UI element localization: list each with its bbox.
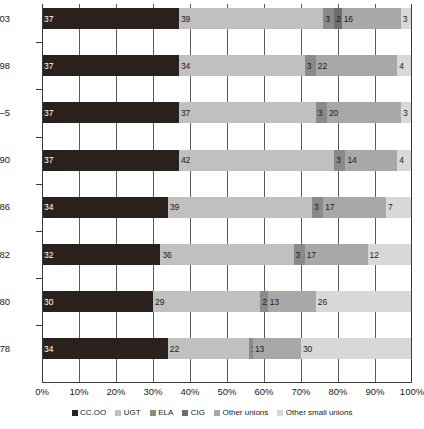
bar-segment-label: 14 [347, 156, 356, 165]
legend-label: UGT [124, 409, 141, 417]
bar-segment[interactable]: 17 [305, 244, 368, 265]
bar-segment[interactable]: 26 [316, 291, 412, 312]
bar-segment[interactable]: 37 [42, 150, 179, 171]
bar-row: 37343224 [42, 55, 412, 76]
bar-segment[interactable]: 37 [42, 55, 179, 76]
legend-item[interactable]: CC.OO [72, 409, 107, 417]
bar-segment[interactable]: 42 [179, 150, 334, 171]
bar-segment[interactable]: 30 [301, 338, 412, 359]
bar-segment-label: 12 [370, 250, 379, 259]
stacked-bar: 34393177 [42, 197, 412, 218]
x-axis-tick-label: 80% [328, 386, 347, 397]
bar-segment[interactable]: 22 [168, 338, 249, 359]
bar-row: 37423144 [42, 150, 412, 171]
bar-segment-label: 36 [162, 250, 171, 259]
bar-segment-label: 3 [296, 250, 301, 259]
bar-segment[interactable]: 4 [397, 55, 412, 76]
bar-segment[interactable]: 2 [334, 8, 341, 29]
bar-segment[interactable]: 37 [179, 102, 316, 123]
bar-segment[interactable]: 16 [342, 8, 401, 29]
bar-segment[interactable]: 34 [42, 338, 168, 359]
bar-segment[interactable]: 29 [153, 291, 260, 312]
bar-segment[interactable]: 22 [316, 55, 397, 76]
x-axis-tick-label: 50% [217, 386, 236, 397]
bar-segment[interactable]: 30 [42, 291, 153, 312]
bar-segment-label: 37 [181, 109, 190, 118]
x-axis-tick-label: 20% [106, 386, 125, 397]
stacked-bar: 37423144 [42, 150, 412, 171]
legend-swatch-icon [150, 410, 156, 416]
bar-segment-label: 37 [44, 14, 53, 23]
legend-label: ELA [158, 409, 173, 417]
chart-legend: CC.OOUGTELACIGOther unionsOther small un… [0, 409, 424, 417]
bar-segment-label: 13 [255, 345, 264, 354]
stacked-bar: 37343224 [42, 55, 412, 76]
bar-segment[interactable]: 39 [168, 197, 312, 218]
bar-segment[interactable]: 14 [345, 150, 397, 171]
legend-item[interactable]: ELA [150, 409, 174, 417]
bar-segment-label: 42 [181, 156, 190, 165]
bar-segment[interactable]: 32 [42, 244, 160, 265]
bar-segment[interactable]: 37 [42, 102, 179, 123]
bar-row: 302921326 [42, 291, 412, 312]
bar-segment[interactable]: 3 [334, 150, 345, 171]
bar-segment-label: 34 [44, 203, 53, 212]
legend-label: CC.OO [80, 409, 106, 417]
bar-segment[interactable]: 37 [42, 8, 179, 29]
y-axis-label: 1990 [0, 154, 10, 165]
bar-segment-label: 2 [336, 14, 341, 23]
bar-segment-label: 2 [262, 297, 267, 306]
legend-swatch-icon [72, 410, 78, 416]
bar-segment-label: 4 [399, 61, 404, 70]
bar-segment[interactable]: 3 [401, 8, 412, 29]
bar-segment-label: 3 [314, 203, 319, 212]
plot-area: 3739321633734322437373203374231443439317… [42, 4, 412, 383]
bar-segment[interactable]: 3 [401, 102, 412, 123]
bar-segment[interactable]: 3 [323, 8, 334, 29]
bar-segment[interactable]: 12 [368, 244, 412, 265]
stacked-bar-chart: 200319981994–519901986198219801978 37393… [0, 0, 424, 429]
bar-segment[interactable]: 34 [42, 197, 168, 218]
bar-row: 37373203 [42, 102, 412, 123]
bar-segment[interactable]: 3 [294, 244, 305, 265]
x-axis-tick-label: 0% [35, 386, 49, 397]
bar-segment[interactable]: 3 [305, 55, 316, 76]
bar-segment-label: 3 [307, 61, 312, 70]
legend-item[interactable]: Other small unions [277, 409, 352, 417]
legend-item[interactable]: UGT [115, 409, 140, 417]
bar-segment-label: 7 [388, 203, 393, 212]
stacked-bar: 323631712 [42, 244, 412, 265]
x-axis-tick-label: 90% [365, 386, 384, 397]
bar-segment[interactable]: 3 [316, 102, 327, 123]
x-axis-tick-label: 40% [180, 386, 199, 397]
bar-segment[interactable]: 7 [386, 197, 412, 218]
bar-segment-label: 17 [325, 203, 334, 212]
bar-segment-label: 4 [399, 156, 404, 165]
bar-segment[interactable]: 13 [268, 291, 316, 312]
legend-swatch-icon [115, 410, 121, 416]
bar-segment-label: 34 [181, 61, 190, 70]
bar-segment[interactable]: 20 [327, 102, 401, 123]
legend-item[interactable]: Other unions [214, 409, 268, 417]
bar-row: 323631712 [42, 244, 412, 265]
legend-label: Other unions [222, 409, 268, 417]
bar-segment[interactable]: 2 [260, 291, 267, 312]
legend-item[interactable]: CIG [182, 409, 205, 417]
bar-segment-label: 39 [170, 203, 179, 212]
bar-segment[interactable]: 39 [179, 8, 323, 29]
bar-segment-label: 26 [318, 297, 327, 306]
bar-segment-label: 3 [336, 156, 341, 165]
legend-swatch-icon [277, 410, 283, 416]
y-axis-label: 1982 [0, 249, 10, 260]
bar-segment[interactable]: 13 [253, 338, 301, 359]
bar-segment-label: 20 [329, 109, 338, 118]
bar-segment[interactable]: 36 [160, 244, 293, 265]
bar-segment[interactable]: 4 [397, 150, 412, 171]
stacked-bar: 37373203 [42, 102, 412, 123]
bar-segment-label: 22 [170, 345, 179, 354]
bar-segment[interactable]: 17 [323, 197, 386, 218]
legend-label: Other small unions [286, 409, 353, 417]
bar-segment[interactable]: 3 [312, 197, 323, 218]
bar-segment-label: 29 [155, 297, 164, 306]
bar-segment[interactable]: 34 [179, 55, 305, 76]
